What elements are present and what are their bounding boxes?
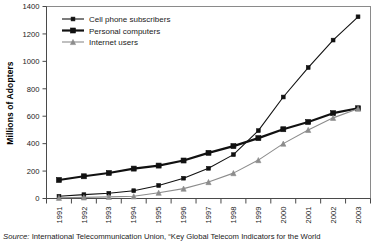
x-tick-label: 2002 — [329, 207, 338, 224]
adoption-line-chart: 0200400600800100012001400 19911992199319… — [0, 0, 378, 247]
data-point-marker — [231, 144, 236, 149]
data-point-marker — [157, 184, 161, 188]
x-axis-ticks — [47, 199, 371, 204]
data-point-marker — [207, 166, 211, 170]
legend-label: Personal computers — [89, 27, 160, 36]
x-tick-label: 2003 — [354, 207, 363, 224]
y-tick-label: 1000 — [23, 57, 40, 66]
x-tick-label: 1991 — [55, 207, 64, 224]
chart-figure: 0200400600800100012001400 19911992199319… — [0, 0, 378, 247]
data-point-marker — [232, 153, 236, 157]
data-point-marker — [131, 166, 136, 171]
data-point-marker — [256, 129, 260, 133]
data-point-marker — [306, 119, 311, 124]
y-tick-label: 0 — [35, 194, 39, 203]
data-point-marker — [331, 38, 335, 42]
data-point-marker — [56, 177, 61, 182]
source-text: International Telecommunication Union, “… — [30, 232, 321, 241]
x-tick-label: 2001 — [304, 207, 313, 224]
x-tick-label: 1999 — [254, 207, 263, 224]
x-tick-label: 1997 — [204, 207, 213, 224]
data-point-marker — [71, 28, 76, 33]
x-axis-tick-labels: 1991199219931994199519961997199819992000… — [55, 207, 363, 224]
data-point-marker — [182, 176, 186, 180]
y-tick-label: 800 — [27, 85, 40, 94]
y-tick-label: 400 — [27, 139, 40, 148]
x-tick-label: 1995 — [154, 207, 163, 224]
x-tick-label: 2000 — [279, 207, 288, 224]
y-tick-label: 200 — [27, 167, 40, 176]
legend-label: Cell phone subscribers — [89, 15, 170, 24]
y-axis-tick-labels: 0200400600800100012001400 — [23, 2, 40, 203]
data-point-marker — [81, 174, 86, 179]
data-point-marker — [181, 158, 186, 163]
y-tick-label: 1200 — [23, 30, 40, 39]
source-note: Source: International Telecommunication … — [3, 232, 375, 242]
legend-label: Internet users — [89, 38, 138, 47]
y-tick-label: 600 — [27, 112, 40, 121]
data-point-marker — [156, 163, 161, 168]
data-point-marker — [256, 136, 261, 141]
data-point-marker — [71, 17, 75, 21]
data-point-marker — [206, 150, 211, 155]
data-point-marker — [281, 95, 285, 99]
data-point-marker — [306, 66, 310, 70]
x-tick-label: 1992 — [80, 207, 89, 224]
y-tick-label: 1400 — [23, 2, 40, 11]
x-tick-label: 1998 — [229, 207, 238, 224]
y-axis-ticks — [43, 7, 47, 199]
x-tick-label: 1994 — [129, 207, 138, 224]
data-point-marker — [106, 170, 111, 175]
x-tick-label: 1993 — [105, 207, 114, 224]
data-point-marker — [132, 189, 136, 193]
x-tick-label: 1996 — [179, 207, 188, 224]
y-axis-title: Millions of Adopters — [5, 61, 15, 145]
data-point-marker — [281, 127, 286, 132]
data-point-marker — [356, 15, 360, 19]
source-label: Source: — [3, 232, 30, 241]
